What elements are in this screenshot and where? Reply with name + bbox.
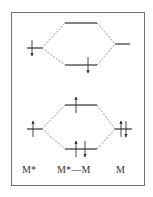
electron-spin-head <box>30 53 33 57</box>
dashed-connector <box>42 129 65 149</box>
mo-diagram: M* M*—M M <box>0 0 153 197</box>
panels-group <box>27 23 132 158</box>
dashed-connector <box>97 129 115 149</box>
dashed-connector <box>97 105 115 129</box>
electron-spin-head <box>74 141 77 145</box>
electron-spin-head <box>124 134 127 138</box>
top-panel <box>27 23 130 74</box>
dashed-connector <box>42 48 65 65</box>
label-right-atom: M <box>116 164 125 175</box>
electron-spin-head <box>74 97 77 101</box>
dashed-connector <box>42 105 65 129</box>
label-left-atom: M* <box>22 164 36 175</box>
electron-spin-head <box>119 121 122 125</box>
electron-spin-head <box>86 70 89 74</box>
dashed-connector <box>97 44 115 65</box>
dashed-connector <box>42 23 65 48</box>
electron-spin-head <box>83 154 86 158</box>
bottom-panel <box>27 97 132 158</box>
dashed-connector <box>97 23 115 44</box>
electron-spin-head <box>31 121 34 125</box>
label-molecule: M*—M <box>57 164 91 175</box>
